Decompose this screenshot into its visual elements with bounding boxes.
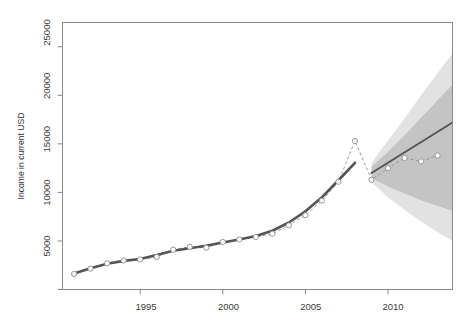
y-axis-ticks [58, 47, 63, 290]
data-point-marker [237, 237, 242, 242]
y-tick-label-20000: 20000 [41, 73, 52, 99]
x-tick-label-2005: 2005 [300, 301, 321, 312]
y-axis-title: Income in current USD [16, 113, 26, 200]
y-tick-label-25000: 25000 [41, 19, 52, 45]
data-point-marker [270, 231, 275, 236]
fitted-trend-line [74, 163, 355, 274]
y-tick-label-10000: 10000 [41, 179, 52, 205]
data-point-marker [187, 244, 192, 249]
data-point-marker [138, 257, 143, 262]
data-point-marker [435, 153, 440, 158]
data-point-marker [253, 234, 258, 239]
x-tick-label-2010: 2010 [383, 301, 404, 312]
data-point-marker [352, 138, 357, 143]
x-tick-label-1995: 1995 [135, 301, 156, 312]
data-point-marker [154, 254, 159, 259]
chart-container: 25000 20000 15000 10000 5000 Income in c… [0, 0, 463, 324]
data-point-marker [419, 159, 424, 164]
data-point-marker [369, 177, 374, 182]
data-point-marker [319, 198, 324, 203]
data-point-marker [385, 166, 390, 171]
y-tick-label-5000: 5000 [41, 235, 52, 256]
data-point-marker [105, 261, 110, 266]
x-tick-label-2000: 2000 [218, 301, 239, 312]
y-tick-label-15000: 15000 [41, 126, 52, 152]
data-point-marker [121, 258, 126, 263]
data-point-marker [88, 266, 93, 271]
data-point-marker [402, 155, 407, 160]
x-axis-ticks [140, 290, 388, 295]
data-point-marker [303, 213, 308, 218]
income-forecast-chart: 25000 20000 15000 10000 5000 Income in c… [0, 0, 463, 324]
data-point-marker [286, 223, 291, 228]
data-point-marker [220, 239, 225, 244]
data-point-marker [204, 245, 209, 250]
data-point-marker [71, 271, 76, 276]
data-point-marker [171, 247, 176, 252]
data-point-marker [336, 179, 341, 184]
